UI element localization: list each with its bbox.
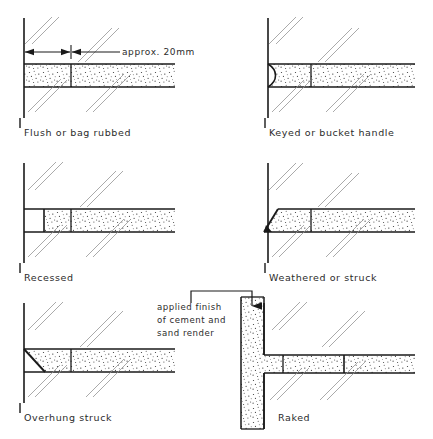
caption-overhung: Overhung struck [24,412,112,423]
dimension-20mm: approx. 20mm [25,45,195,59]
caption-weathered: Weathered or struck [269,272,377,283]
caption-keyed: Keyed or bucket handle [269,127,394,138]
brick-hatch [28,162,123,207]
caption-recessed: Recessed [24,272,74,283]
mortar-bed-keyed [268,64,415,87]
brick-hatch [269,17,359,62]
brick-hatch [269,163,359,207]
brick-hatch [272,302,365,347]
detail-recessed: Recessed [20,162,175,283]
detail-flush: approx. 20mm Flush or bag rubbed [20,17,195,138]
caption-flush: Flush or bag rubbed [24,127,131,138]
drawing-sheet: approx. 20mm Flush or bag rubbed Keyed o… [0,0,433,439]
annotation-line-1: applied finish [157,302,222,312]
mortar-bed-raked [264,355,415,373]
annotation-line-3: sand render [157,328,214,338]
dimension-label: approx. 20mm [122,47,195,57]
detail-weathered: Weathered or struck [264,163,415,283]
mortar-joint-diagram: approx. 20mm Flush or bag rubbed Keyed o… [0,0,433,439]
mortar-bed-weathered [264,209,415,232]
mortar-bed-flush [24,64,175,87]
brick-hatch [28,302,123,347]
annotation-line-2: of cement and [157,315,226,325]
detail-overhung: Overhung struck [20,302,175,423]
mortar-bed-overhung [24,349,175,372]
caption-raked: Raked [278,412,310,423]
detail-raked: applied finish of cement and sand render… [157,291,415,429]
brick-hatch [25,17,119,62]
detail-keyed: Keyed or bucket handle [265,17,415,138]
